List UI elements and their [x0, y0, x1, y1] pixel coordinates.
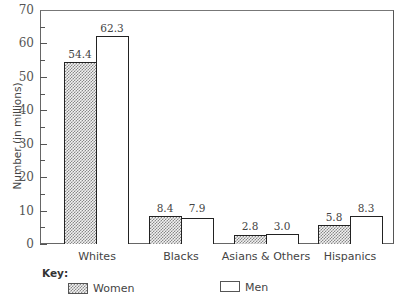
y-tick-minor — [40, 160, 45, 161]
y-tick — [40, 43, 47, 44]
y-tick-label: 0 — [4, 238, 34, 250]
value-label: 7.9 — [177, 202, 217, 214]
y-tick-label: 10 — [4, 205, 34, 217]
y-tick-minor — [40, 194, 45, 195]
bar-whites-women — [64, 62, 97, 244]
legend-swatch-men — [220, 281, 240, 292]
y-tick-minor — [40, 27, 45, 28]
y-tick — [40, 211, 47, 212]
legend-label-men: Men — [245, 281, 268, 294]
y-tick-label: 70 — [4, 4, 34, 16]
category-label: Whites — [52, 250, 142, 263]
bar-hispanics-men — [350, 216, 383, 244]
y-tick — [40, 144, 47, 145]
y-tick — [40, 177, 47, 178]
bar-hispanics-women — [318, 225, 351, 244]
value-label: 54.4 — [60, 48, 100, 60]
value-label: 8.3 — [346, 202, 386, 214]
category-label: Asians & Others — [221, 250, 311, 263]
bar-whites-men — [96, 36, 129, 244]
bar-asians-women — [234, 235, 267, 244]
y-tick — [40, 244, 47, 245]
y-tick-minor — [40, 94, 45, 95]
category-label: Hispanics — [305, 250, 395, 263]
category-label: Blacks — [136, 250, 226, 263]
y-tick-minor — [40, 127, 45, 128]
legend-title: Key: — [42, 267, 68, 279]
y-tick-label: 60 — [4, 37, 34, 49]
bar-blacks-women — [149, 216, 182, 244]
legend-swatch-women — [68, 283, 88, 294]
y-axis-title: Number (in millions) — [11, 81, 23, 191]
bar-blacks-men — [181, 218, 214, 244]
y-tick — [40, 110, 47, 111]
y-tick-minor — [40, 227, 45, 228]
y-tick — [40, 77, 47, 78]
y-tick-minor — [40, 60, 45, 61]
bar-asians-men — [266, 234, 299, 244]
legend-label-women: Women — [93, 282, 134, 295]
value-label: 62.3 — [92, 22, 132, 34]
value-label: 3.0 — [262, 220, 302, 232]
